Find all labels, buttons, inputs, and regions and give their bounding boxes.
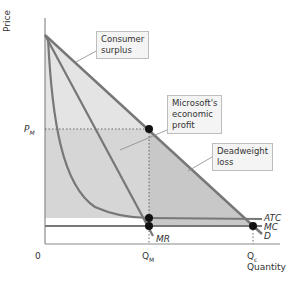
atc-qm-point bbox=[145, 214, 153, 222]
qm-sub: M bbox=[149, 256, 154, 263]
origin-label: 0 bbox=[35, 251, 41, 261]
profit-line-2: economic bbox=[172, 109, 217, 120]
dwl-line-1: Deadweight bbox=[217, 146, 268, 157]
mc-qm-point bbox=[145, 222, 153, 230]
profit-line-3: profit bbox=[172, 120, 217, 131]
dwl-line-2: loss bbox=[217, 157, 268, 168]
cs-leader bbox=[76, 50, 98, 62]
qc-point bbox=[249, 222, 257, 230]
profit-line-1: Microsoft's bbox=[172, 98, 217, 109]
qm-label: QM bbox=[142, 251, 154, 265]
mr-label: MR bbox=[156, 234, 170, 244]
consumer-surplus-callout: Consumer surplus bbox=[96, 31, 149, 59]
dwl-leader bbox=[188, 157, 212, 171]
deadweight-callout: Deadweight loss bbox=[212, 143, 273, 171]
cs-line-2: surplus bbox=[101, 45, 144, 56]
y-axis-label: Price bbox=[2, 10, 12, 32]
pm-sub: M bbox=[29, 129, 34, 136]
d-label: D bbox=[264, 231, 271, 241]
pm-point bbox=[145, 125, 153, 133]
cs-line-1: Consumer bbox=[101, 34, 144, 45]
x-axis-label: Quantity bbox=[247, 262, 286, 272]
pm-label: PM bbox=[24, 124, 35, 138]
profit-callout: Microsoft's economic profit bbox=[167, 95, 222, 134]
